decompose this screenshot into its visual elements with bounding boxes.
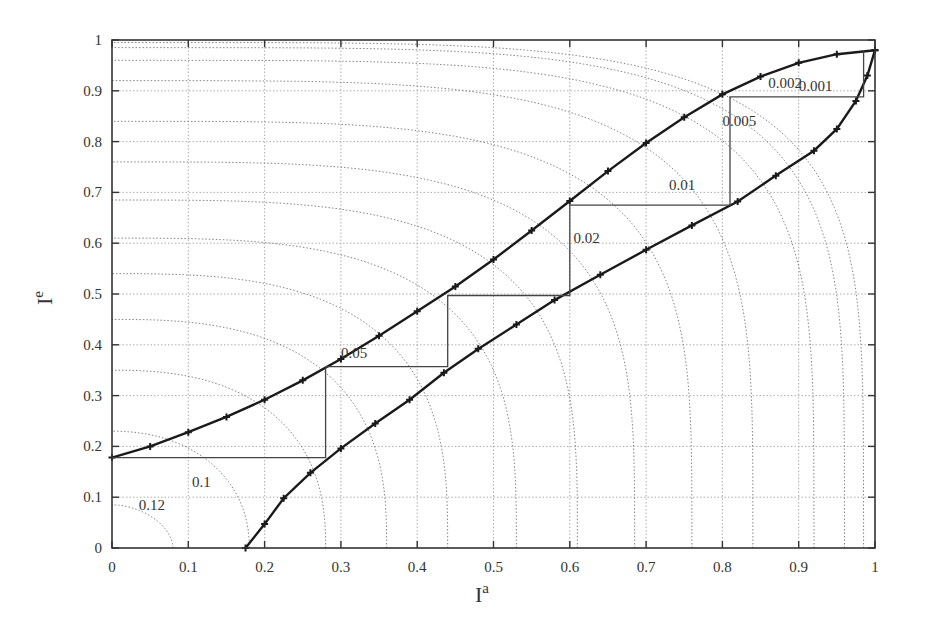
contour-level-label: 0.02 — [574, 230, 600, 246]
contour-level-label: 0.01 — [669, 177, 695, 193]
staircase-line — [112, 50, 864, 457]
data-point-marker — [833, 51, 840, 58]
y-tick-label: 0 — [95, 540, 103, 556]
contour-level-label: 0.1 — [192, 474, 211, 490]
y-tick-label: 0.5 — [83, 286, 102, 302]
contour-line — [112, 60, 814, 548]
contour-line — [112, 162, 635, 548]
x-tick-labels: 00.10.20.30.40.50.60.70.80.91 — [108, 559, 879, 575]
x-tick-label: 0.7 — [637, 559, 656, 575]
y-tick-label: 0.6 — [83, 235, 102, 251]
y-axis-label: Ie — [30, 291, 57, 305]
x-tick-label: 0.5 — [484, 559, 503, 575]
contour-line — [112, 200, 577, 548]
y-tick-label: 0.1 — [83, 489, 102, 505]
x-tick-label: 0.9 — [789, 559, 808, 575]
chart: 0.120.10.050.020.010.0050.0020.001 00.10… — [0, 0, 926, 639]
x-axis-label: Ia — [475, 580, 489, 607]
y-tick-labels: 00.10.20.30.40.50.60.70.80.91 — [83, 32, 102, 556]
y-tick-label: 0.9 — [83, 83, 102, 99]
y-tick-label: 0.8 — [83, 134, 102, 150]
data-point-marker — [147, 443, 154, 450]
x-tick-label: 0.4 — [408, 559, 427, 575]
x-tick-label: 1 — [871, 559, 879, 575]
y-tick-label: 0.7 — [83, 184, 102, 200]
data-point-marker — [864, 72, 871, 79]
contour-level-label: 0.002 — [768, 75, 802, 91]
contour-level-label: 0.001 — [799, 78, 833, 94]
lower-curve-line — [246, 50, 876, 548]
x-tick-label: 0.3 — [332, 559, 351, 575]
y-tick-label: 0.4 — [83, 337, 102, 353]
contour-level-label: 0.005 — [722, 113, 756, 129]
contour-line — [112, 370, 326, 548]
data-point-marker — [185, 429, 192, 436]
contour-level-label: 0.12 — [139, 497, 165, 513]
data-point-marker — [795, 59, 802, 66]
x-tick-label: 0 — [108, 559, 116, 575]
x-tick-label: 0.8 — [713, 559, 732, 575]
x-tick-label: 0.6 — [560, 559, 579, 575]
contour-line — [112, 431, 249, 548]
y-tick-label: 0.2 — [83, 438, 102, 454]
contour-level-label: 0.05 — [341, 345, 367, 361]
y-tick-label: 1 — [95, 32, 103, 48]
x-tick-label: 0.1 — [179, 559, 198, 575]
x-tick-label: 0.2 — [255, 559, 274, 575]
y-tick-label: 0.3 — [83, 388, 102, 404]
